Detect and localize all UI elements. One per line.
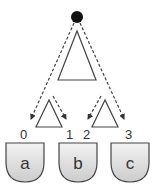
leaf-label-b: b [73, 154, 82, 173]
edge-label-2: 2 [83, 127, 90, 142]
leaf-b: b [59, 143, 97, 182]
top-subtree-triangle [58, 31, 96, 80]
root-node [71, 11, 83, 23]
edge-label-3: 3 [125, 127, 132, 142]
trie-diagram: 0 1 2 3 a b c [0, 0, 157, 193]
right-subtree-triangle [92, 100, 118, 127]
leaf-label-a: a [20, 154, 30, 173]
leaf-label-c: c [126, 154, 135, 173]
leaf-c: c [111, 143, 149, 182]
edge-label-0: 0 [20, 127, 27, 142]
leaf-a: a [6, 143, 44, 182]
left-subtree-triangle [36, 100, 62, 127]
edge-label-1: 1 [66, 127, 73, 142]
